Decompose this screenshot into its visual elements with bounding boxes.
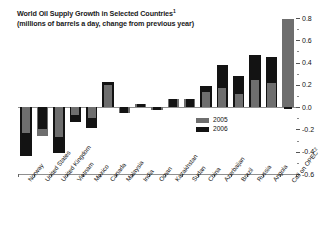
y-axis-tick-label: 0.8 bbox=[302, 15, 312, 22]
y-axis-tick-label: -0.2 bbox=[302, 126, 314, 133]
bar-2005 bbox=[22, 107, 30, 133]
x-axis-line bbox=[18, 174, 296, 175]
y-axis-minor-tick bbox=[297, 163, 299, 164]
bar-2005 bbox=[251, 80, 259, 107]
legend-item: 2005 bbox=[196, 116, 228, 124]
bar-2006 bbox=[137, 104, 145, 107]
bar-2006 bbox=[153, 107, 161, 110]
bar-2005 bbox=[88, 107, 96, 118]
y-axis-tick bbox=[296, 18, 300, 19]
y-axis-tick bbox=[296, 63, 300, 64]
bar-2006 bbox=[38, 107, 46, 129]
y-axis-tick-label: 0.6 bbox=[302, 37, 312, 44]
bar-2005 bbox=[71, 107, 79, 115]
y-axis-tick-label: 0.0 bbox=[302, 104, 312, 111]
chart-container: World Oil Supply Growth in Selected Coun… bbox=[0, 0, 322, 235]
bar-2005 bbox=[282, 19, 293, 107]
y-axis-tick bbox=[296, 152, 300, 153]
y-axis-tick-label: 0.2 bbox=[302, 81, 312, 88]
bar-2005 bbox=[202, 92, 210, 108]
plot-area bbox=[18, 18, 296, 174]
bar-2006 bbox=[169, 99, 177, 107]
y-axis-tick bbox=[296, 40, 300, 41]
y-axis-tick-label: 0.4 bbox=[302, 59, 312, 66]
legend-label: 2006 bbox=[213, 125, 228, 133]
legend-swatch bbox=[196, 127, 209, 132]
y-axis-tick bbox=[296, 85, 300, 86]
chart-legend: 20052006 bbox=[196, 116, 228, 134]
y-axis-tick bbox=[296, 107, 300, 108]
x-axis-tick bbox=[18, 174, 19, 177]
y-axis-minor-tick bbox=[297, 118, 299, 119]
y-axis-minor-tick bbox=[297, 29, 299, 30]
bar-2005 bbox=[267, 83, 275, 108]
legend-label: 2005 bbox=[213, 116, 228, 124]
bar-2006 bbox=[284, 107, 292, 109]
y-axis-minor-tick bbox=[297, 51, 299, 52]
y-axis-tick bbox=[296, 129, 300, 130]
legend-swatch bbox=[196, 118, 209, 123]
bar-2005 bbox=[55, 107, 63, 137]
y-axis-minor-tick bbox=[297, 74, 299, 75]
legend-item: 2006 bbox=[196, 125, 228, 133]
bar-2005 bbox=[235, 94, 243, 107]
bar-2006 bbox=[120, 107, 128, 113]
bar-2005 bbox=[218, 88, 226, 107]
bar-2005 bbox=[104, 85, 112, 107]
y-axis-minor-tick bbox=[297, 96, 299, 97]
y-axis-minor-tick bbox=[297, 141, 299, 142]
title-footnote-marker: 1 bbox=[173, 8, 176, 14]
bar-2006 bbox=[186, 99, 194, 107]
